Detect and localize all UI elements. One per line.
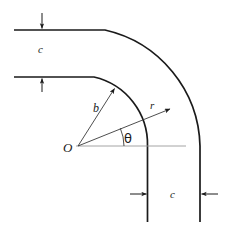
radius-b-ray — [78, 89, 115, 147]
width-label-bottom: c — [170, 189, 175, 200]
width-label-top: c — [38, 44, 43, 55]
variable-radius-label: r — [150, 100, 154, 111]
angle-label: θ — [124, 132, 132, 145]
inner-radius-label: b — [93, 102, 99, 114]
figure-container: c c b r O θ — [0, 0, 227, 225]
duct-bend-drawing — [0, 0, 227, 225]
center-point-label: O — [63, 141, 72, 154]
inner-wall-path — [14, 77, 148, 222]
